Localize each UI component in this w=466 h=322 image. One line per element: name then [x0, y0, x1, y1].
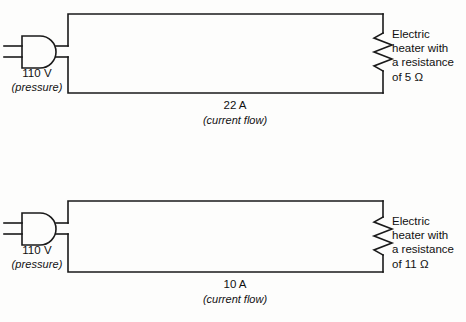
source-voltage-note: (pressure): [0, 257, 74, 271]
heater-label-line-4: of 5 Ω: [392, 70, 466, 84]
wire-top-rail: [68, 201, 383, 223]
heater-label-line-3: a resistance: [392, 55, 466, 69]
source-voltage-value: 110 V: [0, 66, 74, 80]
heater-label-line-2: heater with: [392, 228, 466, 242]
plug-prongs-icon: [4, 223, 22, 234]
diagram-canvas: 110 V (pressure) 22 A (current flow) Ele…: [0, 0, 466, 322]
source-label-bottom: 110 V (pressure): [0, 243, 74, 271]
resistor-icon: [374, 217, 392, 255]
plug-body-icon: [22, 36, 56, 68]
circuit-diagram-bottom: 110 V (pressure) 10 A (current flow) Ele…: [0, 160, 466, 322]
heater-label-line-3: a resistance: [392, 242, 466, 256]
current-note: (current flow): [150, 292, 320, 307]
plug-prongs-icon: [4, 46, 22, 57]
current-value: 22 A: [150, 98, 320, 113]
heater-label-line-4: of 11 Ω: [392, 257, 466, 271]
circuit-diagram-top: 110 V (pressure) 22 A (current flow) Ele…: [0, 0, 466, 160]
wire-bottom-rail: [68, 57, 383, 93]
current-label-bottom: 10 A (current flow): [150, 277, 320, 306]
source-voltage-note: (pressure): [0, 80, 74, 94]
current-note: (current flow): [150, 113, 320, 128]
heater-label-line-2: heater with: [392, 41, 466, 55]
plug-body-icon: [22, 213, 56, 245]
wire-bottom-rail: [68, 234, 383, 272]
heater-label-line-1: Electric: [392, 27, 466, 41]
resistor-icon: [374, 33, 392, 71]
source-label-top: 110 V (pressure): [0, 66, 74, 94]
current-value: 10 A: [150, 277, 320, 292]
heater-label-top: Electric heater with a resistance of 5 Ω: [392, 27, 466, 84]
current-label-top: 22 A (current flow): [150, 98, 320, 127]
wire-top-rail: [68, 14, 383, 46]
heater-label-line-1: Electric: [392, 214, 466, 228]
heater-label-bottom: Electric heater with a resistance of 11 …: [392, 214, 466, 271]
source-voltage-value: 110 V: [0, 243, 74, 257]
